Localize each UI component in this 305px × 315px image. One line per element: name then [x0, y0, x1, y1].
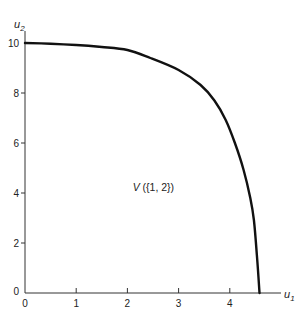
x-tick-label: 2 [125, 298, 131, 309]
x-tick-label: 0 [22, 298, 28, 309]
axes [25, 31, 281, 293]
x-tick-label: 4 [227, 298, 233, 309]
ticks: 012340246810 [8, 38, 233, 309]
y-tick-label: 0 [13, 286, 19, 297]
y-tick-label: 2 [13, 238, 19, 249]
y-tick-label: 6 [13, 138, 19, 149]
chart-canvas: 012340246810 u2 u1 V ({1, 2}) [0, 0, 305, 315]
y-tick-label: 4 [13, 188, 19, 199]
frontier-curve [25, 43, 260, 293]
y-axis-label: u2 [14, 18, 25, 33]
x-tick-label: 3 [176, 298, 182, 309]
y-tick-label: 8 [13, 88, 19, 99]
x-axis-label: u1 [284, 288, 295, 303]
region-label: V ({1, 2}) [133, 181, 174, 193]
x-tick-label: 1 [73, 298, 79, 309]
y-tick-label: 10 [8, 38, 20, 49]
